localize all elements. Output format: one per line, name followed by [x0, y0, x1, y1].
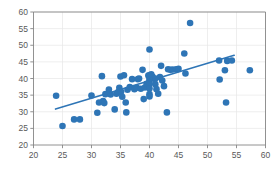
data-point	[181, 50, 188, 57]
x-tick-label: 40	[145, 150, 155, 160]
data-point	[71, 116, 78, 123]
data-point	[146, 85, 153, 92]
data-point	[136, 75, 143, 82]
data-point	[222, 67, 229, 74]
data-point	[247, 67, 254, 74]
y-tick-label: 60	[19, 7, 29, 17]
data-point	[146, 46, 153, 53]
data-point	[121, 72, 128, 79]
data-point	[164, 109, 171, 116]
data-point	[140, 96, 147, 103]
y-axis-tick-labels: 202530354045505560	[19, 7, 29, 150]
x-tick-label: 30	[87, 150, 97, 160]
x-tick-label: 25	[58, 150, 68, 160]
y-tick-label: 45	[19, 57, 29, 67]
data-point	[122, 99, 129, 106]
data-point	[223, 99, 230, 106]
data-point	[155, 90, 162, 97]
scatter-chart: 202530354045505560 202530354045505560	[0, 0, 273, 170]
data-point	[187, 20, 194, 27]
y-tick-label: 25	[19, 123, 29, 133]
data-point	[158, 63, 165, 70]
y-tick-label: 55	[19, 24, 29, 34]
data-point	[123, 109, 130, 116]
data-point	[77, 116, 84, 123]
x-tick-label: 45	[174, 150, 184, 160]
x-tick-label: 60	[261, 150, 271, 160]
data-point	[119, 93, 126, 100]
y-tick-label: 30	[19, 107, 29, 117]
data-point	[53, 92, 60, 99]
data-point	[94, 109, 101, 116]
data-point	[216, 76, 223, 83]
y-tick-label: 40	[19, 74, 29, 84]
data-point	[111, 106, 118, 113]
data-point	[139, 67, 146, 74]
data-point	[99, 73, 106, 80]
y-tick-label: 35	[19, 90, 29, 100]
data-point	[129, 76, 136, 83]
data-point	[59, 123, 66, 130]
data-point	[146, 93, 153, 100]
y-tick-label: 20	[19, 140, 29, 150]
x-axis-tick-labels: 202530354045505560	[29, 150, 271, 160]
chart-canvas: 202530354045505560 202530354045505560	[0, 0, 273, 170]
x-tick-label: 20	[29, 150, 39, 160]
data-point	[229, 57, 236, 64]
x-tick-label: 35	[116, 150, 126, 160]
data-point	[101, 100, 108, 107]
data-points	[53, 20, 253, 130]
y-tick-label: 50	[19, 40, 29, 50]
data-point	[161, 83, 168, 90]
x-tick-label: 55	[232, 150, 242, 160]
x-tick-label: 50	[203, 150, 213, 160]
